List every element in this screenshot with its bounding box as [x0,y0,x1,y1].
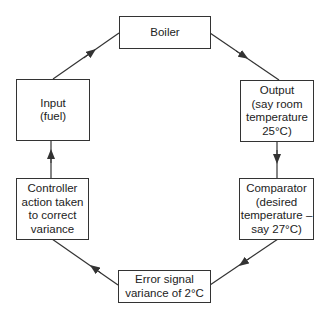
boiler-label: Boiler [150,26,179,40]
arrow-error-to-controller [52,239,118,285]
error-signal-label: Error signal variance of 2°C [125,273,204,300]
boiler-box: Boiler [119,16,211,49]
arrowhead-comparator-to-error [243,258,250,263]
comparator-box: Comparator (desired temperature – say 27… [239,178,314,240]
arrowhead-input-to-boiler [84,52,92,58]
comparator-label: Comparator (desired temperature – say 27… [241,182,313,236]
output-label: Output (say room temperature 25°C) [246,84,308,138]
controller-box: Controller action taken to correct varia… [16,178,89,240]
input-label: Input (fuel) [40,97,66,124]
input-box: Input (fuel) [16,79,90,141]
output-box: Output (say room temperature 25°C) [240,80,314,142]
arrowhead-error-to-controller [94,268,101,273]
controller-label: Controller action taken to correct varia… [21,182,83,236]
error-signal-box: Error signal variance of 2°C [118,270,211,303]
arrowhead-boiler-to-output [236,51,244,56]
arrow-boiler-to-output [210,33,279,80]
